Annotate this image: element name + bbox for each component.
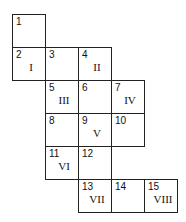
cell-roman-label: II (79, 61, 111, 73)
cell-number: 12 (82, 148, 93, 159)
cell-roman-label: I (13, 61, 45, 73)
grid-cell: 4II (78, 47, 112, 81)
cell-number: 7 (115, 82, 121, 93)
cell-number: 2 (16, 49, 22, 60)
cell-number: 14 (115, 181, 126, 192)
cell-number: 10 (115, 115, 126, 126)
grid-cell: 6 (78, 80, 112, 114)
grid-cell: 12 (78, 146, 112, 180)
cell-roman-label: VI (46, 160, 78, 172)
grid-cell: 5III (45, 80, 79, 114)
cell-number: 8 (49, 115, 55, 126)
grid-cell: 8 (45, 113, 79, 147)
cell-number: 6 (82, 82, 88, 93)
cell-number: 1 (16, 16, 22, 27)
grid-cell: 10 (111, 113, 145, 147)
grid-cell: 9V (78, 113, 112, 147)
cell-roman-label: VIII (145, 193, 177, 205)
grid-cell: 14 (111, 179, 145, 213)
cell-number: 11 (49, 148, 59, 159)
cell-number: 3 (49, 49, 55, 60)
grid-cell: 1 (12, 14, 46, 48)
cell-number: 5 (49, 82, 55, 93)
cell-roman-label: VII (79, 193, 111, 205)
grid-cell: 13VII (78, 179, 112, 213)
grid-cell: 15VIII (144, 179, 178, 213)
grid-cell: 7IV (111, 80, 145, 114)
cell-roman-label: V (79, 127, 111, 139)
cell-number: 15 (148, 181, 159, 192)
cell-number: 4 (82, 49, 88, 60)
cell-roman-label: IV (112, 94, 144, 106)
cell-number: 9 (82, 115, 88, 126)
grid-cell: 3 (45, 47, 79, 81)
grid-cell: 11VI (45, 146, 79, 180)
grid-cell: 2I (12, 47, 46, 81)
cell-number: 13 (82, 181, 93, 192)
cell-roman-label: III (46, 94, 78, 106)
